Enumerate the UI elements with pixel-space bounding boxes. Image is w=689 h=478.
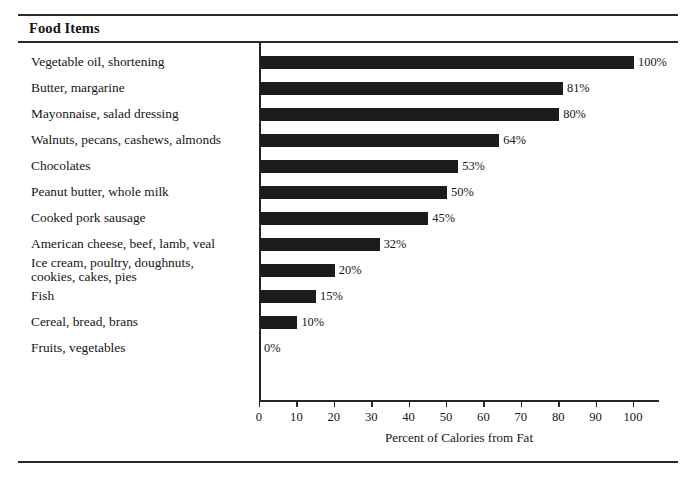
row-label: Chocolates (31, 153, 253, 179)
x-axis-tick (296, 401, 297, 407)
bar-track: 100% (260, 49, 689, 75)
row-label: Cereal, bread, brans (31, 309, 253, 335)
bar (260, 160, 458, 173)
x-axis-tick (446, 401, 447, 407)
bar (260, 186, 447, 199)
table-row: Ice cream, poultry, doughnuts,cookies, c… (0, 257, 689, 283)
row-label-line: Chocolates (31, 159, 253, 174)
row-label-line: Fruits, vegetables (31, 341, 253, 356)
row-label-line: Ice cream, poultry, doughnuts, (31, 256, 253, 271)
row-label: Fruits, vegetables (31, 335, 253, 361)
bar-track: 53% (260, 153, 689, 179)
bar-track: 32% (260, 231, 689, 257)
bar-value-label: 32% (380, 235, 407, 253)
table-row: Vegetable oil, shortening100% (0, 49, 689, 75)
table-row: Chocolates53% (0, 153, 689, 179)
row-label: Fish (31, 283, 253, 309)
bar-track: 81% (260, 75, 689, 101)
x-axis-tick (633, 401, 634, 407)
x-axis-tick (259, 401, 260, 407)
bar-track: 64% (260, 127, 689, 153)
x-axis-tick-label: 20 (328, 409, 341, 425)
header-rule (18, 41, 678, 43)
row-label: Ice cream, poultry, doughnuts,cookies, c… (31, 257, 253, 283)
table-row: Peanut butter, whole milk50% (0, 179, 689, 205)
x-axis-tick (596, 401, 597, 407)
bar-track: 15% (260, 283, 689, 309)
row-label-line: American cheese, beef, lamb, veal (31, 237, 253, 252)
x-axis-tick (409, 401, 410, 407)
bar (260, 238, 380, 251)
bar-value-label: 53% (458, 157, 485, 175)
table-row: Fish15% (0, 283, 689, 309)
page-title: Food Items (29, 20, 100, 37)
bar (260, 264, 335, 277)
x-axis-tick-label: 80 (552, 409, 565, 425)
bar-track: 50% (260, 179, 689, 205)
x-axis-tick-label: 40 (402, 409, 415, 425)
bar (260, 56, 634, 69)
bar-track: 20% (260, 257, 689, 283)
x-axis-tick-label: 30 (365, 409, 378, 425)
row-label-line: Vegetable oil, shortening (31, 55, 253, 70)
table-row: American cheese, beef, lamb, veal32% (0, 231, 689, 257)
bar (260, 108, 559, 121)
bar-value-label: 10% (297, 313, 324, 331)
x-axis-tick-label: 70 (515, 409, 528, 425)
table-row: Cooked pork sausage45% (0, 205, 689, 231)
bar-value-label: 15% (316, 287, 343, 305)
table-row: Cereal, bread, brans10% (0, 309, 689, 335)
x-axis-tick (521, 401, 522, 407)
bar-track: 10% (260, 309, 689, 335)
bar (260, 134, 499, 147)
row-label-line: Walnuts, pecans, cashews, almonds (31, 133, 253, 148)
table-row: Butter, margarine81% (0, 75, 689, 101)
bar (260, 316, 297, 329)
table-row: Fruits, vegetables0% (0, 335, 689, 361)
bar (260, 290, 316, 303)
bar-value-label: 0% (260, 339, 281, 357)
bar-rows: Vegetable oil, shortening100%Butter, mar… (0, 49, 689, 394)
x-axis-tick-label: 0 (256, 409, 262, 425)
row-label-line: Mayonnaise, salad dressing (31, 107, 253, 122)
bar-value-label: 50% (447, 183, 474, 201)
row-label: Mayonnaise, salad dressing (31, 101, 253, 127)
bar-track: 0% (260, 335, 689, 361)
x-axis-title: Percent of Calories from Fat (259, 430, 659, 446)
row-label-line: Peanut butter, whole milk (31, 185, 253, 200)
bar-value-label: 20% (335, 261, 362, 279)
row-label: Butter, margarine (31, 75, 253, 101)
x-axis-tick-label: 100 (624, 409, 643, 425)
row-label: American cheese, beef, lamb, veal (31, 231, 253, 257)
bar-track: 80% (260, 101, 689, 127)
row-label-line: Cooked pork sausage (31, 211, 253, 226)
bar (260, 82, 563, 95)
table-row: Mayonnaise, salad dressing80% (0, 101, 689, 127)
row-label: Cooked pork sausage (31, 205, 253, 231)
row-label-line: Cereal, bread, brans (31, 315, 253, 330)
bar-value-label: 81% (563, 79, 590, 97)
x-axis-ticks: 0102030405060708090100 (0, 400, 689, 430)
row-label-line: Fish (31, 289, 253, 304)
x-axis-tick-label: 60 (477, 409, 490, 425)
bar-track: 45% (260, 205, 689, 231)
row-label-line: Butter, margarine (31, 81, 253, 96)
x-axis-tick (558, 401, 559, 407)
bar-value-label: 100% (634, 53, 667, 71)
bar (260, 212, 428, 225)
bar-value-label: 80% (559, 105, 586, 123)
x-axis-tick-label: 50 (440, 409, 453, 425)
bar-value-label: 45% (428, 209, 455, 227)
row-label: Walnuts, pecans, cashews, almonds (31, 127, 253, 153)
x-axis-tick-label: 90 (589, 409, 602, 425)
row-label: Vegetable oil, shortening (31, 49, 253, 75)
table-row: Walnuts, pecans, cashews, almonds64% (0, 127, 689, 153)
bar-value-label: 64% (499, 131, 526, 149)
x-axis-tick (483, 401, 484, 407)
x-axis-tick (334, 401, 335, 407)
chart-page: Food Items Vegetable oil, shortening100%… (0, 0, 689, 478)
row-label: Peanut butter, whole milk (31, 179, 253, 205)
x-axis-tick (371, 401, 372, 407)
bottom-rule (18, 461, 678, 463)
top-rule (18, 14, 678, 16)
